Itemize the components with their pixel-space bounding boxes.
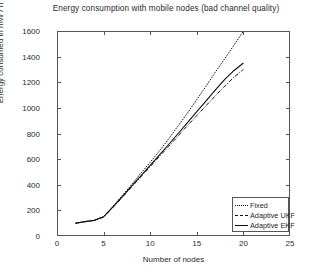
x-tick-mark: [197, 31, 198, 35]
chart-legend: Fixed Adaptive UKF Adaptive EKF: [232, 197, 289, 232]
solid-line-icon: [235, 221, 248, 229]
y-tick-mark: [286, 108, 290, 109]
y-axis-label: Energy consumed in mW / h: [0, 0, 5, 138]
legend-item-adaptive-ukf: Adaptive UKF: [235, 210, 286, 220]
x-tick-label: 0: [55, 239, 59, 248]
y-tick-label: 1200: [22, 78, 40, 87]
x-tick-label: 15: [192, 239, 201, 248]
x-tick-label: 5: [101, 239, 105, 248]
x-axis-label: Number of nodes: [57, 255, 290, 264]
y-tick-label: 200: [27, 206, 40, 215]
x-tick-label: 20: [239, 239, 248, 248]
y-tick-mark: [57, 134, 61, 135]
y-tick-mark: [286, 134, 290, 135]
x-tick-mark: [197, 232, 198, 236]
y-tick-mark: [57, 185, 61, 186]
chart-title: Energy consumption with mobile nodes (ba…: [0, 4, 332, 13]
y-tick-mark: [286, 159, 290, 160]
legend-label: Adaptive UKF: [250, 211, 295, 220]
x-tick-mark: [243, 232, 244, 236]
y-tick-mark: [286, 57, 290, 58]
legend-item-fixed: Fixed: [235, 200, 286, 210]
x-tick-mark: [150, 232, 151, 236]
legend-label: Fixed: [250, 201, 268, 210]
chart-figure: Energy consumption with mobile nodes (ba…: [0, 0, 332, 277]
y-tick-mark: [57, 210, 61, 211]
x-tick-mark: [104, 31, 105, 35]
dotted-line-icon: [235, 201, 248, 209]
x-tick-label: 10: [146, 239, 155, 248]
y-tick-mark: [57, 108, 61, 109]
y-tick-mark: [57, 82, 61, 83]
y-tick-label: 800: [27, 129, 40, 138]
x-tick-mark: [104, 232, 105, 236]
x-tick-label: 25: [286, 239, 295, 248]
y-tick-mark: [57, 159, 61, 160]
x-tick-mark: [150, 31, 151, 35]
x-tick-mark: [243, 31, 244, 35]
y-tick-label: 1000: [22, 103, 40, 112]
y-tick-label: 1400: [22, 52, 40, 61]
y-tick-mark: [57, 57, 61, 58]
y-tick-label: 1600: [22, 27, 40, 36]
y-tick-label: 400: [27, 180, 40, 189]
y-tick-mark: [286, 82, 290, 83]
y-tick-mark: [286, 185, 290, 186]
y-tick-label: 600: [27, 155, 40, 164]
y-tick-label: 0: [36, 232, 40, 241]
legend-label: Adaptive EKF: [250, 221, 295, 230]
legend-item-adaptive-ekf: Adaptive EKF: [235, 220, 286, 230]
dashed-line-icon: [235, 211, 248, 219]
